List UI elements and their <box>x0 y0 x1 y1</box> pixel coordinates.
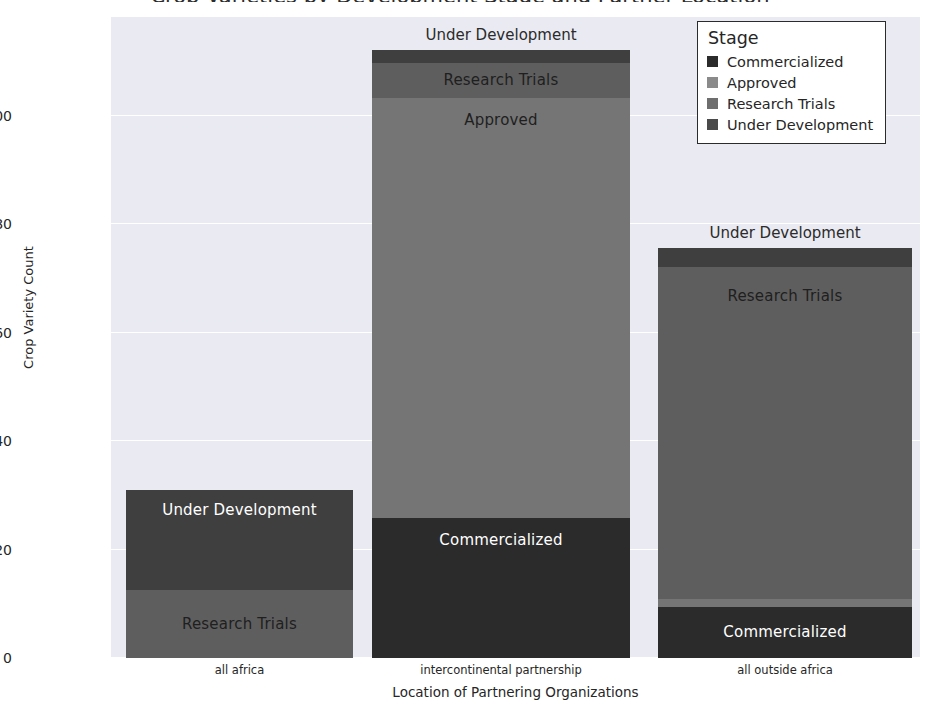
legend-item-commercialized[interactable]: Commercialized <box>707 51 873 72</box>
ytick-label-0: 0 <box>0 650 12 666</box>
bar-all-outside-africa[interactable]: Commercialized Research Trials <box>658 248 912 658</box>
bar-segment-approved[interactable] <box>658 599 912 607</box>
legend-item-under-development[interactable]: Under Development <box>707 114 873 135</box>
segment-label: Research Trials <box>443 73 558 88</box>
bar-segment-approved[interactable]: Approved <box>372 98 630 518</box>
segment-label: Commercialized <box>723 625 846 640</box>
legend-item-research-trials[interactable]: Research Trials <box>707 93 873 114</box>
ytick-label-20: 20 <box>0 542 12 558</box>
chart-title: Crop Varieties by Development Stage and … <box>110 0 810 2</box>
y-axis-label: Crop Variety Count <box>21 218 36 398</box>
bar-segment-research-trials[interactable]: Research Trials <box>126 590 353 658</box>
bar-segment-research-trials[interactable]: Research Trials <box>658 267 912 599</box>
legend-label: Commercialized <box>727 54 844 70</box>
legend-swatch-approved <box>707 77 718 88</box>
legend-swatch-under-development <box>707 119 718 130</box>
segment-label: Research Trials <box>182 617 297 632</box>
legend-label: Under Development <box>727 117 873 133</box>
segment-label: Under Development <box>162 503 317 518</box>
ytick-label-100: 100 <box>0 108 12 124</box>
bar-segment-commercialized[interactable]: Commercialized <box>372 518 630 658</box>
legend-swatch-research-trials <box>707 98 718 109</box>
bar-segment-under-development[interactable]: Under Development <box>126 490 353 590</box>
segment-label: Research Trials <box>727 289 842 304</box>
chart-figure: Crop Varieties by Development Stage and … <box>0 0 937 712</box>
bar-segment-commercialized[interactable]: Commercialized <box>658 607 912 658</box>
bar-segment-research-trials[interactable]: Research Trials <box>372 63 630 98</box>
xtick-label-all-outside-africa: all outside africa <box>658 663 912 677</box>
legend-swatch-commercialized <box>707 56 718 67</box>
outside-label-intercontinental-under-development: Under Development <box>372 26 630 44</box>
ytick-label-40: 40 <box>0 433 12 449</box>
legend-item-approved[interactable]: Approved <box>707 72 873 93</box>
segment-label: Commercialized <box>439 533 562 548</box>
xtick-label-intercontinental-partnership: intercontinental partnership <box>372 663 630 677</box>
x-axis-label: Location of Partnering Organizations <box>111 684 920 700</box>
xtick-label-all-africa: all africa <box>126 663 353 677</box>
bar-all-africa[interactable]: Research Trials Under Development <box>126 490 353 658</box>
bar-intercontinental-partnership[interactable]: Commercialized Approved Research Trials <box>372 50 630 658</box>
bar-segment-under-development[interactable] <box>658 248 912 267</box>
legend-label: Approved <box>727 75 797 91</box>
ytick-label-60: 60 <box>0 325 12 341</box>
segment-label: Approved <box>464 113 538 128</box>
ytick-label-80: 80 <box>0 216 12 232</box>
outside-label-outside-africa-under-development: Under Development <box>658 224 912 242</box>
bar-segment-under-development[interactable] <box>372 50 630 63</box>
legend-title: Stage <box>708 28 873 48</box>
legend: Stage Commercialized Approved Research T… <box>697 21 886 144</box>
legend-label: Research Trials <box>727 96 835 112</box>
